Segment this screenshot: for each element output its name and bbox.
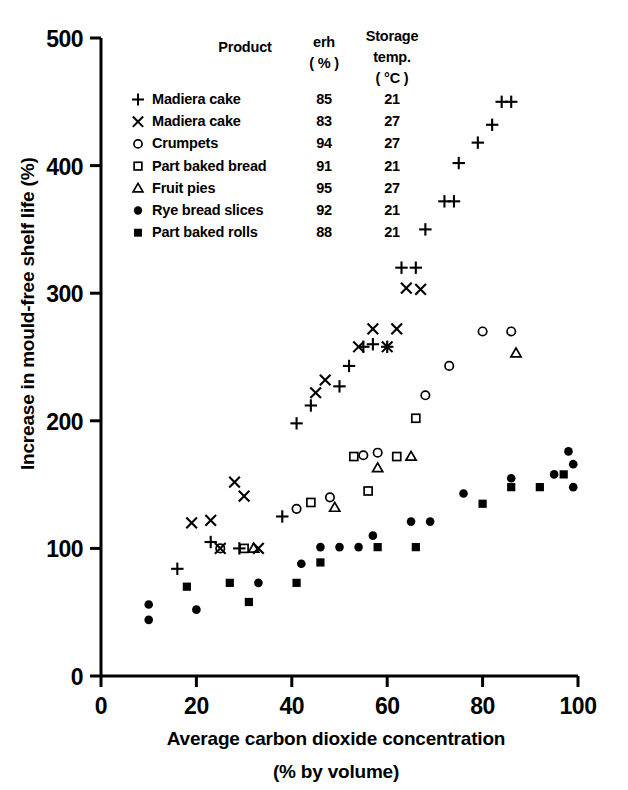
marker-square-open [393, 453, 401, 461]
x-axis-ticks [101, 676, 578, 687]
series-5 [249, 348, 522, 552]
marker-plus [486, 119, 498, 131]
marker-circle-open [359, 451, 367, 459]
marker-square-open [134, 162, 142, 170]
marker-plus [505, 96, 517, 108]
marker-triangle-open [406, 451, 416, 460]
marker-circle-open [507, 327, 515, 335]
marker-cross [133, 117, 143, 127]
y-tick-label: 100 [46, 536, 83, 562]
marker-plus [276, 510, 288, 522]
x-tick-label: 100 [560, 693, 597, 719]
marker-circle-filled [192, 605, 201, 614]
x-axis-title-line1: Average carbon dioxide concentration [167, 728, 505, 749]
legend-row: Part baked bread9121 [134, 158, 400, 174]
data-points-layer [144, 96, 577, 625]
legend-erh-value: 92 [316, 202, 332, 218]
marker-plus [419, 223, 431, 235]
legend-header-temp-line2: temp. [373, 49, 411, 65]
legend-temp-value: 21 [384, 158, 400, 174]
legend-row: Rye bread slices9221 [134, 202, 400, 218]
marker-circle-filled [144, 616, 153, 625]
legend-product-label: Madiera cake [152, 113, 241, 129]
marker-circle-open [326, 493, 334, 501]
series-2 [186, 283, 426, 554]
marker-circle-open [478, 327, 486, 335]
chart-figure: 0100200300400500 020406080100 Increase i… [0, 0, 628, 790]
legend-erh-value: 94 [316, 135, 332, 151]
marker-circle-filled [407, 517, 416, 526]
marker-square-filled [478, 500, 486, 508]
marker-circle-filled [297, 559, 306, 568]
marker-circle-filled [335, 543, 344, 552]
y-axis-ticks [90, 38, 101, 676]
marker-plus [453, 157, 465, 169]
marker-square-open [350, 453, 358, 461]
legend-row: Madiera cake8521 [132, 91, 400, 107]
marker-circle-open [373, 448, 381, 456]
marker-circle-filled [426, 517, 435, 526]
marker-circle-filled [354, 543, 363, 552]
y-tick-label: 300 [46, 281, 83, 307]
scatter-plot-svg: 0100200300400500 020406080100 Increase i… [0, 0, 628, 790]
legend-erh-value: 83 [316, 113, 332, 129]
legend-product-label: Rye bread slices [152, 202, 263, 218]
marker-circle-filled [550, 470, 559, 479]
legend-erh-value: 88 [316, 224, 332, 240]
y-tick-label: 500 [46, 26, 83, 52]
marker-square-open [412, 414, 420, 422]
legend-product-label: Part baked bread [152, 158, 266, 174]
marker-square-filled [412, 543, 420, 551]
marker-circle-filled [569, 460, 578, 469]
marker-circle-filled [316, 543, 325, 552]
marker-plus [333, 380, 345, 392]
marker-cross [239, 491, 250, 502]
y-axis-title-text: Increase in mould-free shelf life (%) [17, 157, 38, 470]
marker-circle-open [292, 505, 300, 513]
x-tick-label: 0 [95, 693, 107, 719]
legend-product-label: Crumpets [152, 135, 218, 151]
series-4 [240, 414, 420, 552]
marker-cross [186, 518, 197, 529]
marker-plus [367, 338, 379, 350]
marker-circle-filled [369, 531, 378, 540]
marker-circle-filled [134, 206, 142, 214]
legend-temp-value: 21 [384, 202, 400, 218]
series-3 [216, 327, 515, 552]
x-axis-tick-labels: 020406080100 [95, 693, 597, 719]
legend-temp-value: 27 [384, 113, 400, 129]
marker-circle-filled [144, 600, 153, 609]
legend-header-temp-unit: ( °C ) [376, 70, 409, 86]
marker-square-filled [134, 229, 142, 237]
marker-plus [472, 136, 484, 148]
marker-plus [132, 94, 144, 106]
marker-circle-open [445, 362, 453, 370]
legend-header-temp-line1: Storage [366, 28, 419, 44]
y-tick-label: 0 [71, 664, 83, 690]
legend-erh-value: 91 [316, 158, 332, 174]
marker-square-filled [183, 583, 191, 591]
y-tick-label: 200 [46, 409, 83, 435]
marker-plus [290, 417, 302, 429]
marker-circle-open [134, 140, 142, 148]
marker-square-filled [226, 579, 234, 587]
marker-cross [391, 324, 402, 335]
marker-cross [205, 515, 216, 526]
marker-plus [410, 261, 422, 273]
legend-erh-value: 95 [316, 180, 332, 196]
marker-circle-filled [507, 474, 516, 483]
legend-row: Part baked rolls8821 [134, 224, 400, 240]
chart-legend: Product erh ( % ) Storage temp. ( °C ) M… [132, 28, 418, 240]
legend-product-label: Part baked rolls [152, 224, 258, 240]
marker-plus [395, 261, 407, 273]
marker-circle-filled [254, 579, 263, 588]
marker-square-filled [507, 483, 515, 491]
legend-product-label: Madiera cake [152, 91, 241, 107]
y-axis-title: Increase in mould-free shelf life (%) [17, 157, 38, 470]
marker-square-filled [374, 543, 382, 551]
marker-square-open [364, 487, 372, 495]
marker-triangle-open [511, 348, 521, 357]
legend-temp-value: 21 [384, 91, 400, 107]
legend-product-label: Fruit pies [152, 180, 215, 196]
x-tick-label: 40 [280, 693, 305, 719]
